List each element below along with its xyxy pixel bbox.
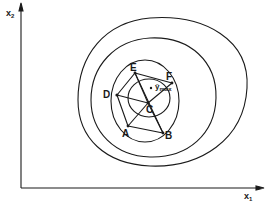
point-label-e: E xyxy=(130,63,137,73)
x-axis-label: x1 xyxy=(244,192,252,202)
diagram-canvas xyxy=(0,0,274,202)
optimum-label-sub: max xyxy=(159,86,171,92)
y-axis-label: x2 xyxy=(6,9,14,19)
point-d-dot xyxy=(115,93,118,96)
simplex-edge-d-c xyxy=(117,95,148,103)
point-b-dot xyxy=(162,132,165,135)
optimum-dot xyxy=(150,87,152,89)
simplex-edge-a-c xyxy=(128,103,148,126)
point-label-c: C xyxy=(146,105,153,115)
y-axis-arrow-icon xyxy=(19,3,23,11)
simplex-edge-c-e xyxy=(135,73,148,103)
x-axis-arrow-icon xyxy=(256,186,264,190)
point-label-a: A xyxy=(122,129,129,139)
point-label-b: B xyxy=(165,131,172,141)
optimum-label: ŷmax xyxy=(155,83,171,92)
point-label-f: F xyxy=(166,72,172,82)
point-a-dot xyxy=(127,125,130,128)
y-axis-label-sub: 2 xyxy=(11,13,14,19)
x-axis-label-sub: 1 xyxy=(249,196,252,202)
point-label-d: D xyxy=(103,90,110,100)
